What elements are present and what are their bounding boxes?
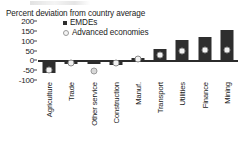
y-axis-tick-mark [34, 21, 37, 22]
x-axis-label-slot: Other service [82, 82, 104, 148]
bar-emdes [87, 60, 100, 64]
marker-advanced-economies [46, 66, 53, 73]
x-axis-category-label: Construction [111, 82, 120, 123]
scan-artifact [30, 1, 90, 5]
x-axis-label-slot: Mining [216, 82, 238, 148]
bar-group [194, 21, 216, 80]
bar-group [216, 21, 238, 80]
bar-group [82, 21, 104, 80]
y-axis-tick-label: 100 [21, 36, 34, 45]
x-axis-category-label: Transport [156, 82, 165, 113]
x-axis-label-slot: Trade [60, 82, 82, 148]
bar-emdes [220, 30, 233, 60]
x-axis-label-slot: Construction [105, 82, 127, 148]
bar-group [149, 21, 171, 80]
y-axis-tick-label: -100 [19, 76, 34, 85]
marker-advanced-economies [201, 47, 208, 54]
y-axis-tick-label: -50 [23, 66, 34, 75]
marker-advanced-economies [179, 47, 186, 54]
marker-advanced-economies [134, 55, 141, 62]
x-axis-label-slot: Transport [149, 82, 171, 148]
x-axis-label-slot: Agriculture [38, 82, 60, 148]
x-axis-category-label: Finance [200, 82, 209, 108]
x-axis-category-label: Manuf. [133, 82, 142, 105]
x-axis-category-label: Mining [222, 82, 231, 104]
x-axis-label-slot: Finance [194, 82, 216, 148]
marker-advanced-economies [68, 59, 75, 66]
chart-figure: Percent deviation from country average 2… [0, 0, 244, 149]
x-axis-category-label: Utilities [178, 82, 187, 106]
x-axis-category-labels: AgricultureTradeOther serviceConstructio… [38, 82, 238, 148]
x-axis-category-label: Agriculture [45, 82, 54, 117]
marker-advanced-economies [90, 67, 97, 74]
y-axis-tick-label: 200 [21, 17, 34, 26]
y-axis-tick-mark [34, 80, 37, 81]
y-axis-tick-mark [34, 50, 37, 51]
y-axis-tick-mark [34, 40, 37, 41]
x-axis-label-slot: Manuf. [127, 82, 149, 148]
y-axis-tick-label: 50 [26, 46, 35, 55]
marker-advanced-economies [112, 59, 119, 66]
bar-group [171, 21, 193, 80]
plot-area [38, 21, 238, 80]
x-axis-category-label: Trade [67, 82, 76, 101]
bar-group [38, 21, 60, 80]
bar-group [60, 21, 82, 80]
marker-advanced-economies [223, 47, 230, 54]
x-axis-label-slot: Utilities [171, 82, 193, 148]
y-axis-tick-mark [34, 60, 37, 61]
bar-group [127, 21, 149, 80]
marker-advanced-economies [157, 52, 164, 59]
y-axis-tick-labels: 200150100500-50-100 [0, 21, 34, 80]
y-axis-tick-mark [34, 30, 37, 31]
bar-group [105, 21, 127, 80]
y-axis-tick-label: 150 [21, 26, 34, 35]
x-axis-category-label: Other service [89, 82, 98, 126]
y-axis-tick-mark [34, 70, 37, 71]
